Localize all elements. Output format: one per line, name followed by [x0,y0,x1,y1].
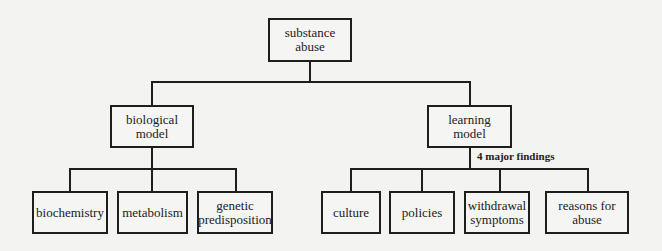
connector-to-culture [350,168,352,191]
node-learning-model: learning model [427,105,512,148]
node-reasons-for-abuse: reasons for abuse [545,191,629,234]
connector-to-biological [151,81,153,105]
node-biological-model: biological model [110,105,194,148]
annotation-major-findings: 4 major findings [477,150,554,162]
connector-learning-horizontal [350,168,589,170]
connector-root-horizontal [151,81,471,83]
node-metabolism: metabolism [117,191,188,234]
connector-to-withdrawal [499,168,501,191]
node-genetic-predisposition: genetic predisposition [197,191,273,234]
node-policies: policies [389,191,455,234]
connector-to-genetic [235,168,237,191]
connector-root-down [309,61,311,83]
connector-to-metabolism [151,168,153,191]
node-biochemistry: biochemistry [32,191,108,234]
connector-learning-down [469,147,471,169]
node-culture: culture [321,191,381,234]
connector-biological-horizontal [69,168,237,170]
node-substance-abuse: substance abuse [268,18,352,62]
node-withdrawal-symptoms: withdrawal symptoms [464,191,530,234]
connector-to-biochemistry [69,168,71,191]
connector-to-policies [421,168,423,191]
connector-to-learning [469,81,471,105]
connector-to-reasons [587,168,589,191]
connector-biological-down [151,147,153,169]
